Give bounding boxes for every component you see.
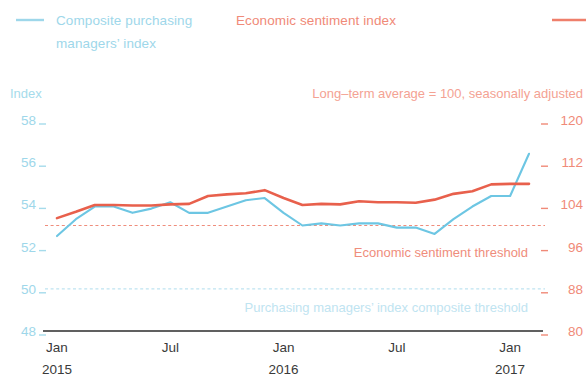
left-axis-ticks: 585654525048 xyxy=(21,113,46,339)
legend-label-esi: Economic sentiment index xyxy=(236,13,396,28)
left-tick-label-50: 50 xyxy=(21,282,36,297)
left-tick-label-56: 56 xyxy=(21,155,36,170)
chart-subtitle: Long–term average = 100, seasonally adju… xyxy=(312,86,583,101)
right-tick-label-96: 96 xyxy=(568,240,583,255)
x-tick-label-year-0: 2015 xyxy=(42,362,72,377)
left-tick-label-48: 48 xyxy=(21,324,36,339)
series-line-pmi xyxy=(57,154,529,236)
right-axis-ticks: 120112104968880 xyxy=(541,113,583,339)
annotation-economic-sentiment-threshold: Economic sentiment threshold xyxy=(354,245,528,260)
left-tick-label-52: 52 xyxy=(21,240,36,255)
x-tick-label-year-2: 2016 xyxy=(269,362,299,377)
legend-label-pmi-line2: managers’ index xyxy=(56,36,156,51)
right-tick-label-104: 104 xyxy=(560,197,583,212)
left-tick-label-54: 54 xyxy=(21,197,37,212)
x-tick-label-month-1: Jul xyxy=(162,340,179,355)
right-tick-label-80: 80 xyxy=(568,324,583,339)
x-tick-label-month-2: Jan xyxy=(273,340,295,355)
annotation-pmi-composite-threshold: Purchasing managers’ index composite thr… xyxy=(244,300,528,315)
legend-label-pmi-line1: Composite purchasing xyxy=(56,13,192,28)
data-series xyxy=(57,154,529,236)
right-tick-label-112: 112 xyxy=(561,155,583,170)
x-tick-label-month-4: Jan xyxy=(499,340,521,355)
x-tick-label-year-4: 2017 xyxy=(495,362,525,377)
x-tick-label-month-3: Jul xyxy=(388,340,405,355)
series-line-esi xyxy=(57,184,529,218)
chart-figure: Composite purchasing managers’ index Eco… xyxy=(0,0,588,387)
x-axis-ticks: Jan2015JulJan2016JulJan2017 xyxy=(42,340,525,377)
left-axis-title: Index xyxy=(10,86,42,101)
left-tick-label-58: 58 xyxy=(21,113,36,128)
x-tick-label-month-0: Jan xyxy=(46,340,68,355)
right-tick-label-120: 120 xyxy=(560,113,583,128)
right-tick-label-88: 88 xyxy=(568,282,583,297)
chart-legend: Composite purchasing managers’ index Eco… xyxy=(16,13,586,51)
